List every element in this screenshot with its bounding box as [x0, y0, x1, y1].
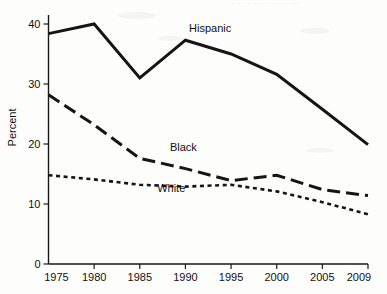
series-line-white: [49, 175, 369, 214]
x-tick-label: 2009: [347, 271, 371, 283]
x-tick-label: 2000: [264, 271, 288, 283]
y-tick-label: 20: [28, 138, 40, 150]
series-label-group: HispanicBlackWhite: [157, 22, 232, 194]
x-tick-label: 1975: [44, 271, 68, 283]
paper-speck: [306, 148, 334, 153]
series-label-black: Black: [170, 141, 197, 153]
y-tick-label: 0: [34, 258, 40, 270]
x-tick-label: 1980: [82, 271, 106, 283]
y-tick-label: 30: [28, 78, 40, 90]
line-chart: 010203040 197519801985199019952000200520…: [0, 0, 387, 294]
chart-container: · ···· ·· ····· ········· ···· 010203040…: [0, 0, 387, 294]
x-tick-label: 1990: [173, 271, 197, 283]
data-series-group: [49, 24, 369, 214]
x-axis-ticks: 19751980198519901995200020052009: [44, 264, 371, 283]
series-label-white: White: [157, 182, 185, 194]
x-tick-label: 1985: [128, 271, 152, 283]
y-tick-label: 10: [28, 198, 40, 210]
x-tick-label: 2005: [310, 271, 334, 283]
y-tick-label: 40: [28, 18, 40, 30]
y-axis-ticks: 010203040: [28, 18, 48, 270]
x-tick-label: 1995: [219, 271, 243, 283]
paper-speck: [118, 12, 156, 19]
y-axis-title: Percent: [6, 109, 18, 147]
chart-axes: [49, 15, 369, 264]
series-label-hispanic: Hispanic: [189, 22, 232, 34]
paper-speck: [300, 28, 330, 34]
paper-speck: [157, 36, 183, 41]
